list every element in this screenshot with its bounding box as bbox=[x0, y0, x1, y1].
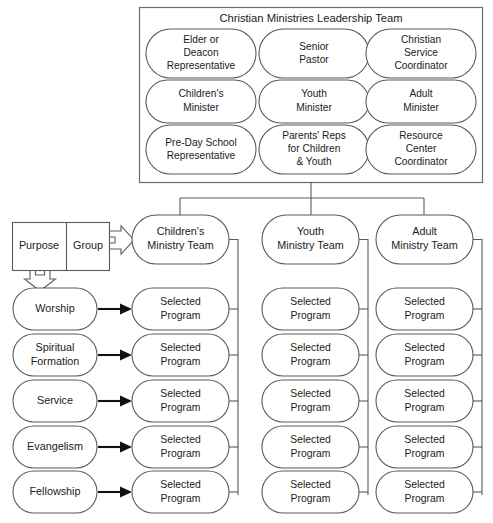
purpose-worship[interactable]: Worship bbox=[13, 288, 97, 330]
leadership-member-line: Coordinator bbox=[394, 156, 448, 167]
leadership-member-line: Parents' Reps bbox=[282, 130, 346, 141]
purpose-arrow-icon bbox=[98, 396, 132, 407]
program-label: Selected bbox=[290, 296, 331, 307]
leadership-member-line: Children's bbox=[179, 88, 224, 99]
program-cell[interactable]: Selected Program bbox=[376, 288, 473, 330]
spine-youth bbox=[359, 240, 368, 496]
program-label: Program bbox=[161, 356, 201, 367]
leadership-member-line: & Youth bbox=[296, 156, 331, 167]
legend-group-label: Group bbox=[73, 239, 103, 251]
program-cell[interactable]: Selected Program bbox=[132, 426, 229, 468]
program-cell[interactable]: Selected Program bbox=[376, 334, 473, 376]
purpose-label: Service bbox=[37, 394, 73, 406]
leadership-member[interactable]: Senior Pastor bbox=[259, 29, 369, 78]
purpose-to-program-arrows bbox=[98, 304, 132, 498]
program-grid: Selected Program Selected Program Select… bbox=[132, 288, 473, 513]
program-cell[interactable]: Selected Program bbox=[132, 380, 229, 422]
purpose-arrow-icon bbox=[98, 442, 132, 453]
program-cell[interactable]: Selected Program bbox=[132, 334, 229, 376]
leadership-members: Elder or Deacon Representative Senior Pa… bbox=[146, 29, 476, 174]
leadership-member-line: Service bbox=[404, 47, 438, 58]
program-label: Program bbox=[291, 448, 331, 459]
purpose-arrow-icon bbox=[98, 350, 132, 361]
program-label: Program bbox=[161, 310, 201, 321]
ministry-team-children[interactable]: Children's Ministry Team bbox=[132, 215, 229, 264]
leadership-member-line: Pre-Day School bbox=[165, 137, 236, 148]
program-cell[interactable]: Selected Program bbox=[376, 426, 473, 468]
program-label: Selected bbox=[160, 479, 201, 490]
program-label: Program bbox=[405, 448, 445, 459]
purpose-label: Spiritual bbox=[35, 341, 74, 353]
purpose-fellowship[interactable]: Fellowship bbox=[13, 471, 97, 513]
program-cell[interactable]: Selected Program bbox=[376, 380, 473, 422]
program-cell[interactable]: Selected Program bbox=[376, 471, 473, 513]
leadership-member-line: for Children bbox=[288, 143, 341, 154]
leadership-member-line: Christian bbox=[401, 34, 441, 45]
leadership-member-line: Adult bbox=[409, 88, 432, 99]
ministry-team-line: Adult bbox=[412, 225, 437, 237]
purpose-arrow-icon bbox=[98, 304, 132, 315]
program-label: Program bbox=[161, 448, 201, 459]
ministry-team-line: Ministry Team bbox=[391, 239, 457, 251]
leadership-member[interactable]: Children's Minister bbox=[146, 80, 256, 123]
leadership-member-line: Youth bbox=[301, 88, 327, 99]
ministry-team-headers: Children's Ministry Team Youth Ministry … bbox=[132, 215, 473, 264]
legend-purpose-group: Purpose Group bbox=[13, 223, 135, 292]
leadership-panel-title: Christian Ministries Leadership Team bbox=[219, 12, 402, 24]
purpose-spiritual-formation[interactable]: Spiritual Formation bbox=[13, 334, 97, 376]
program-label: Program bbox=[291, 402, 331, 413]
program-cell[interactable]: Selected Program bbox=[262, 380, 359, 422]
ministry-team-youth[interactable]: Youth Ministry Team bbox=[262, 215, 359, 264]
leadership-member-line: Minister bbox=[183, 102, 219, 113]
program-label: Selected bbox=[404, 296, 445, 307]
leadership-member[interactable]: Parents' Reps for Children & Youth bbox=[259, 125, 369, 174]
leadership-member-line: Representative bbox=[167, 60, 236, 71]
leadership-member-line: Resource bbox=[399, 130, 443, 141]
program-label: Program bbox=[161, 402, 201, 413]
program-label: Selected bbox=[290, 388, 331, 399]
legend-right-block-arrow-icon bbox=[110, 226, 135, 254]
leadership-member[interactable]: Pre-Day School Representative bbox=[146, 125, 256, 174]
leadership-member-line: Elder or bbox=[183, 34, 219, 45]
ministry-team-line: Ministry Team bbox=[147, 239, 213, 251]
program-cell[interactable]: Selected Program bbox=[132, 471, 229, 513]
leadership-member-line: Deacon bbox=[183, 47, 218, 58]
org-chart-svg: Christian Ministries Leadership Team Eld… bbox=[0, 0, 493, 523]
leadership-member[interactable]: Christian Service Coordinator bbox=[366, 29, 476, 78]
leadership-member[interactable]: Resource Center Coordinator bbox=[366, 125, 476, 174]
program-label: Program bbox=[405, 356, 445, 367]
program-label: Program bbox=[291, 493, 331, 504]
program-label: Selected bbox=[404, 479, 445, 490]
purpose-column: Worship Spiritual Formation Service Evan… bbox=[13, 288, 97, 513]
leadership-member[interactable]: Elder or Deacon Representative bbox=[146, 29, 256, 78]
program-label: Selected bbox=[404, 434, 445, 445]
purpose-service[interactable]: Service bbox=[13, 380, 97, 422]
program-label: Selected bbox=[404, 342, 445, 353]
legend-purpose-label: Purpose bbox=[19, 239, 59, 251]
program-cell[interactable]: Selected Program bbox=[262, 426, 359, 468]
program-label: Selected bbox=[160, 342, 201, 353]
leadership-member-line: Minister bbox=[296, 102, 332, 113]
program-label: Selected bbox=[404, 388, 445, 399]
purpose-label: Formation bbox=[31, 355, 80, 367]
program-label: Selected bbox=[160, 434, 201, 445]
program-cell[interactable]: Selected Program bbox=[262, 471, 359, 513]
ministry-team-adult[interactable]: Adult Ministry Team bbox=[376, 215, 473, 264]
program-label: Program bbox=[291, 356, 331, 367]
program-cell[interactable]: Selected Program bbox=[262, 288, 359, 330]
leadership-member-line: Representative bbox=[167, 150, 236, 161]
leadership-member[interactable]: Youth Minister bbox=[259, 80, 369, 123]
purpose-evangelism[interactable]: Evangelism bbox=[13, 426, 97, 468]
ministry-team-line: Ministry Team bbox=[277, 239, 343, 251]
leadership-member-line: Center bbox=[406, 143, 437, 154]
leadership-member-line: Coordinator bbox=[394, 60, 448, 71]
leadership-member-line: Minister bbox=[403, 102, 439, 113]
program-cell[interactable]: Selected Program bbox=[262, 334, 359, 376]
purpose-arrow-icon bbox=[98, 487, 132, 498]
leadership-member[interactable]: Adult Minister bbox=[366, 80, 476, 123]
purpose-label: Evangelism bbox=[27, 440, 83, 452]
program-label: Program bbox=[405, 493, 445, 504]
program-label: Selected bbox=[290, 342, 331, 353]
program-label: Program bbox=[405, 402, 445, 413]
program-cell[interactable]: Selected Program bbox=[132, 288, 229, 330]
